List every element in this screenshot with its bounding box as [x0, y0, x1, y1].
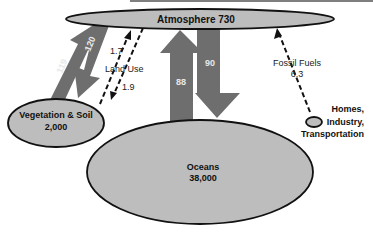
- homes-label-line3: Transportation: [301, 129, 364, 139]
- homes-label-line1: Homes,: [331, 104, 364, 114]
- oceans-label: Oceans: [187, 162, 220, 172]
- ocean-to-atm-value: 88: [176, 77, 186, 87]
- vegetation-value: 2,000: [45, 122, 68, 132]
- atmosphere-label: Atmosphere 730: [157, 14, 235, 25]
- land-use-label: Land Use: [105, 64, 144, 74]
- homes-label-line2: Industry,: [327, 117, 364, 127]
- fossil-fuels-label: Fossil Fuels: [273, 58, 322, 68]
- vegetation-label: Vegetation & Soil: [19, 110, 93, 120]
- land-use-down-value: 1.9: [122, 82, 135, 92]
- atm-to-ocean-value: 90: [205, 58, 215, 68]
- fossil-fuels-value: 6.3: [291, 69, 304, 79]
- land-use-up-value: 1.7: [110, 46, 123, 56]
- atm-to-ocean-arrow: [195, 28, 240, 118]
- oceans-value: 38,000: [189, 173, 217, 183]
- homes-ellipse: [306, 117, 322, 127]
- carbon-cycle-diagram: 119 120 1.7 Land Use 1.9 88 90 Fossil Fu…: [0, 0, 373, 233]
- oceans-ellipse: [87, 120, 313, 224]
